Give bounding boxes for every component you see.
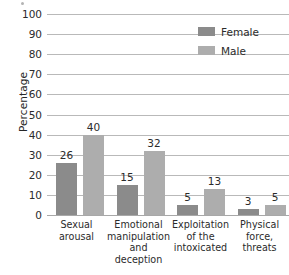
x-axis-category-label: Sexualarousal — [47, 219, 106, 265]
bar-value-label: 26 — [60, 149, 73, 161]
bar-group: 2640 — [47, 14, 108, 215]
y-axis-tick-label: 60 — [29, 88, 42, 100]
x-axis-labels: SexualarousalEmotionalmanipulationanddec… — [47, 219, 289, 265]
scan-artifact-speck — [21, 2, 24, 5]
y-axis-title: Percentage — [17, 47, 29, 157]
y-axis-tick-label: 90 — [29, 28, 42, 40]
bar-male[interactable]: 40 — [83, 135, 104, 215]
y-axis-tick-label: 100 — [22, 8, 42, 20]
bar-female[interactable]: 26 — [56, 163, 77, 215]
bar-value-label: 32 — [147, 137, 160, 149]
gridline: 0 — [47, 215, 289, 216]
chart-legend: FemaleMale — [198, 24, 259, 62]
bar-female[interactable]: 15 — [117, 185, 138, 215]
bar-male[interactable]: 13 — [204, 189, 225, 215]
bar-value-label: 5 — [184, 191, 191, 203]
bar-female[interactable]: 5 — [177, 205, 198, 215]
y-axis-tick-label: 0 — [35, 209, 42, 221]
x-axis-category-label: Exploitationof theintoxicated — [171, 219, 230, 265]
bar-male[interactable]: 5 — [265, 205, 286, 215]
bar-female[interactable]: 3 — [238, 209, 259, 215]
legend-item-male[interactable]: Male — [198, 43, 259, 58]
legend-swatch-icon — [198, 46, 215, 55]
bar-chart: Percentage 1009080706050403020100 264015… — [0, 0, 289, 275]
bar-male[interactable]: 32 — [144, 151, 165, 215]
y-axis-tick-label: 10 — [29, 189, 42, 201]
legend-swatch-icon — [198, 27, 215, 36]
y-axis-tick-label: 80 — [29, 48, 42, 60]
bar-value-label: 5 — [272, 191, 279, 203]
y-axis-tick-label: 50 — [29, 109, 42, 121]
legend-label: Female — [221, 26, 259, 38]
y-axis-tick-label: 20 — [29, 169, 42, 181]
bar-value-label: 40 — [87, 121, 100, 133]
y-axis-tick-label: 70 — [29, 68, 42, 80]
x-axis-category-label: Physicalforce,threats — [230, 219, 289, 265]
legend-label: Male — [221, 45, 246, 57]
y-axis-tick-label: 40 — [29, 129, 42, 141]
bar-value-label: 3 — [245, 195, 252, 207]
bar-value-label: 13 — [208, 175, 221, 187]
x-axis-category-label: Emotionalmanipulationanddeception — [106, 219, 171, 265]
bar-value-label: 15 — [120, 171, 133, 183]
y-axis-tick-label: 30 — [29, 149, 42, 161]
legend-item-female[interactable]: Female — [198, 24, 259, 39]
bar-group: 1532 — [108, 14, 169, 215]
